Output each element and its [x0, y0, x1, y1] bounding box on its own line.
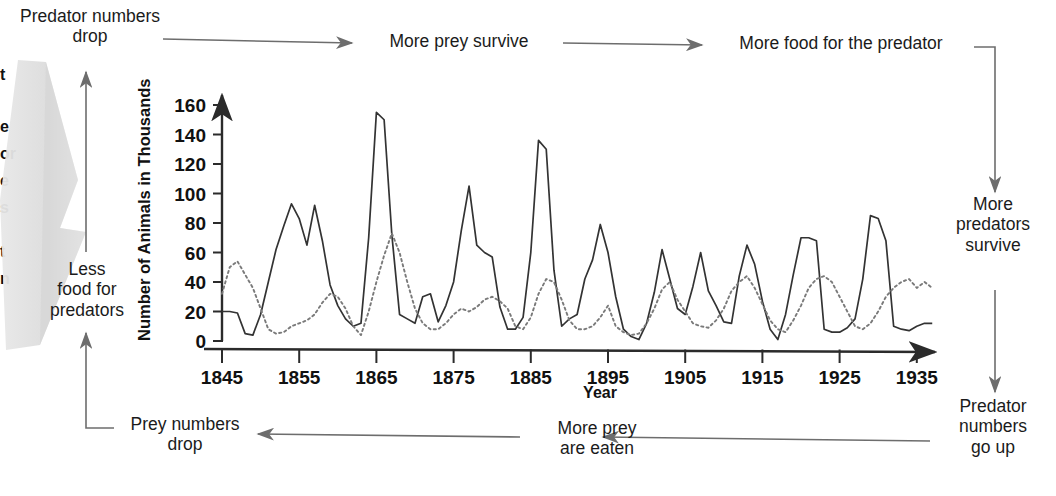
- x-tick-label: 1855: [278, 367, 321, 388]
- series-predator-line: [222, 233, 932, 335]
- x-tick-label: 1865: [355, 367, 398, 388]
- x-tick-label: 1885: [510, 367, 553, 388]
- x-tick-labels: 1845185518651875188518951905191519251935: [201, 367, 939, 388]
- predator-prey-diagram: t e or e s t n: [0, 0, 1056, 496]
- y-tick-label: 60: [185, 243, 206, 264]
- y-tick-label: 140: [174, 125, 206, 146]
- x-tick-label: 1935: [896, 367, 939, 388]
- population-chart: 020406080100120140160 184518551865187518…: [0, 0, 1056, 496]
- x-tick-label: 1915: [741, 367, 784, 388]
- x-tick-label: 1925: [818, 367, 861, 388]
- y-tick-label: 160: [174, 95, 206, 116]
- x-axis-title: Year: [583, 384, 617, 401]
- y-tick-label: 40: [185, 272, 206, 293]
- x-axis: [204, 349, 935, 352]
- y-tick-label: 80: [185, 213, 206, 234]
- y-tick-label: 120: [174, 154, 206, 175]
- x-tick-label: 1845: [201, 367, 244, 388]
- y-axis-title: Number of Animals in Thousands: [135, 79, 153, 342]
- y-tick-labels: 020406080100120140160: [174, 95, 206, 352]
- y-tick-label: 20: [185, 302, 206, 323]
- x-tick-label: 1875: [432, 367, 475, 388]
- series-prey-line: [222, 112, 932, 339]
- y-tick-label: 0: [195, 331, 206, 352]
- x-tick-label: 1905: [664, 367, 707, 388]
- y-tick-label: 100: [174, 184, 206, 205]
